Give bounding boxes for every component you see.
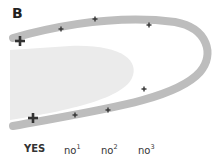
axis-label-no1: no1	[64, 143, 81, 156]
panel-label: B	[12, 5, 23, 21]
axis-label-yes: YES	[24, 143, 45, 154]
loop-diagram	[0, 0, 219, 167]
axis-label-no3: no3	[138, 143, 155, 156]
axis-label-no2: no2	[101, 143, 118, 156]
small-plus-icon	[142, 87, 147, 92]
